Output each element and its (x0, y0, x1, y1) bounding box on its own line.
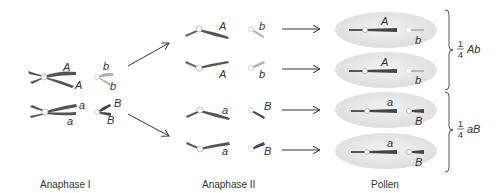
allele-label: A (74, 79, 82, 91)
allele-label: B (107, 114, 114, 126)
allele-label: a (387, 96, 393, 108)
ratio-numerator: 1 (458, 119, 463, 129)
allele-label: b (415, 74, 421, 86)
allele-label: B (114, 97, 121, 109)
allele-label: b (259, 68, 265, 80)
ratio-ab: 1 4 Ab (457, 39, 480, 60)
meiosis-pollen-diagram: A A b b a a B B A b (0, 0, 504, 193)
allele-label: A (218, 68, 226, 80)
allele-label: b (103, 60, 109, 72)
allele-label: A (218, 20, 226, 32)
ratio-genotype: aB (467, 123, 480, 135)
ratio-denominator: 4 (458, 130, 463, 140)
allele-label: A (380, 15, 388, 27)
brace-icon (445, 10, 453, 90)
allele-label: b (259, 20, 265, 32)
arrow-icon (128, 43, 169, 66)
allele-label: B (264, 100, 271, 112)
stage-label-anaphase-1: Anaphase I (40, 179, 91, 190)
stage-label-pollen: Pollen (371, 179, 399, 190)
allele-label: a (222, 145, 228, 157)
allele-label: a (222, 104, 228, 116)
allele-label: A (380, 56, 388, 68)
allele-label: B (415, 156, 422, 168)
stage-label-anaphase-2: Anaphase II (202, 179, 255, 190)
ratio-ab-recip: 1 4 aB (457, 119, 480, 140)
ratio-genotype: Ab (466, 43, 480, 55)
allele-label: b (110, 80, 116, 92)
allele-label: B (264, 145, 271, 157)
allele-label: a (79, 99, 85, 111)
allele-label: a (387, 137, 393, 149)
anaphase1-top-long-chromosome (28, 71, 76, 88)
brace-icon (445, 92, 453, 172)
ratio-denominator: 4 (458, 50, 463, 60)
arrow-icon (128, 114, 169, 136)
allele-label: B (415, 115, 422, 127)
allele-label: b (415, 34, 421, 46)
allele-label: A (62, 61, 70, 73)
ratio-numerator: 1 (458, 39, 463, 49)
allele-label: a (67, 115, 73, 127)
